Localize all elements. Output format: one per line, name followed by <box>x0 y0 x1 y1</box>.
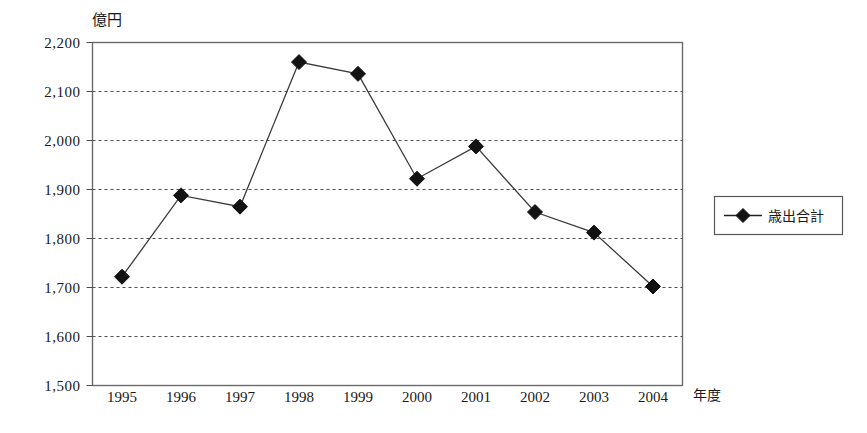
x-tick-label: 2003 <box>579 389 609 405</box>
x-tick-label: 2002 <box>520 389 550 405</box>
data-point-marker <box>410 171 425 186</box>
y-tick-label: 2,000 <box>44 133 80 149</box>
y-tick-label: 1,600 <box>44 329 80 345</box>
plot-area-border <box>93 43 683 386</box>
x-tick-label: 2000 <box>402 389 432 405</box>
x-tick-label: 2001 <box>461 389 491 405</box>
x-tick-label: 1996 <box>166 389 197 405</box>
series-歳出合計 <box>115 55 661 294</box>
data-point-marker <box>233 199 248 214</box>
chart-container: 億円 1,5001,6001,7001,8001,9002,0002,1002,… <box>0 0 867 433</box>
x-axis-title: 年度 <box>693 387 721 403</box>
y-tick-label: 1,800 <box>44 231 80 247</box>
y-tick-label: 1,500 <box>44 378 80 394</box>
y-tick-label: 1,900 <box>44 182 80 198</box>
x-tick-label: 1997 <box>225 389 256 405</box>
legend: 歳出合計 <box>715 197 843 235</box>
legend-item-label: 歳出合計 <box>768 208 824 224</box>
x-tick-label: 1999 <box>343 389 373 405</box>
series-line <box>122 62 653 286</box>
data-point-marker <box>351 66 366 81</box>
data-point-marker <box>115 269 130 284</box>
x-tick-label: 1998 <box>284 389 314 405</box>
y-axis: 1,5001,6001,7001,8001,9002,0002,1002,200 <box>44 35 682 394</box>
x-tick-label: 2004 <box>638 389 669 405</box>
line-chart: 億円 1,5001,6001,7001,8001,9002,0002,1002,… <box>0 0 867 433</box>
data-point-marker <box>174 188 189 203</box>
y-axis-unit-label: 億円 <box>92 11 122 29</box>
y-tick-label: 2,200 <box>44 35 80 51</box>
data-point-marker <box>292 55 307 70</box>
x-axis: 1995199619971998199920002001200220032004 <box>107 389 669 405</box>
x-tick-label: 1995 <box>107 389 137 405</box>
y-tick-label: 2,100 <box>44 84 80 100</box>
y-tick-label: 1,700 <box>44 280 80 296</box>
